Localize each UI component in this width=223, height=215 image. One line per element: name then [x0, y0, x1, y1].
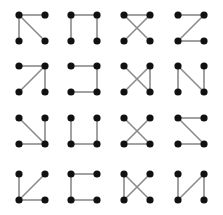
dot-br [146, 88, 153, 95]
dot-bl [67, 196, 74, 203]
dot-tl [15, 62, 22, 69]
dot-tr [200, 114, 207, 121]
dot-bl [120, 37, 127, 44]
pattern-cell-r2-c3 [120, 62, 153, 95]
dot-br [93, 88, 100, 95]
dot-tr [93, 170, 100, 177]
dot-br [93, 37, 100, 44]
dot-bl [15, 37, 22, 44]
pattern-cell-r1-c3 [120, 11, 153, 44]
dot-tl [15, 114, 22, 121]
dot-br [200, 140, 207, 147]
dot-bl [174, 140, 181, 147]
dot-bl [67, 88, 74, 95]
dot-br [146, 140, 153, 147]
dot-bl [120, 140, 127, 147]
dot-tr [93, 62, 100, 69]
pattern-cell-r4-c2 [67, 170, 100, 203]
dot-bl [120, 88, 127, 95]
dot-br [146, 37, 153, 44]
dot-tl [67, 170, 74, 177]
dot-bl [15, 140, 22, 147]
pattern-cell-r3-c2 [67, 114, 100, 147]
dot-tr [93, 114, 100, 121]
dot-br [41, 37, 48, 44]
dot-tl [15, 11, 22, 18]
dot-br [200, 196, 207, 203]
dot-tl [120, 114, 127, 121]
dot-bl [67, 140, 74, 147]
dot-tl [67, 62, 74, 69]
dot-tl [174, 114, 181, 121]
dot-tl [15, 170, 22, 177]
dot-tr [200, 62, 207, 69]
pattern-cell-r1-c2 [67, 11, 100, 44]
dot-tr [200, 11, 207, 18]
edge-tl-br [19, 15, 45, 41]
edge-tl-br [19, 118, 45, 144]
dot-tr [41, 170, 48, 177]
pattern-cell-r4-c3 [120, 170, 153, 203]
dot-bl [174, 37, 181, 44]
pattern-cell-r3-c4 [174, 114, 207, 147]
dot-tr [146, 114, 153, 121]
dot-tr [146, 170, 153, 177]
dot-tr [93, 11, 100, 18]
dot-tl [120, 170, 127, 177]
edge-tr-bl [178, 15, 204, 41]
dot-tl [67, 11, 74, 18]
dot-tl [67, 114, 74, 121]
dot-tr [200, 170, 207, 177]
dot-tr [146, 62, 153, 69]
edge-tr-bl [178, 174, 204, 200]
pattern-cell-r4-c1 [15, 170, 48, 203]
dot-bl [174, 88, 181, 95]
dot-tl [120, 11, 127, 18]
dot-br [41, 88, 48, 95]
edge-tl-br [178, 118, 204, 144]
dot-tr [41, 62, 48, 69]
dot-pattern-grid [0, 0, 223, 215]
dot-br [200, 88, 207, 95]
dot-br [93, 140, 100, 147]
dot-tl [174, 62, 181, 69]
pattern-cell-r2-c4 [174, 62, 207, 95]
pattern-cell-r3-c3 [120, 114, 153, 147]
dot-tl [174, 11, 181, 18]
edge-tr-bl [19, 66, 45, 92]
dot-bl [15, 88, 22, 95]
dot-bl [67, 37, 74, 44]
pattern-cell-r2-c1 [15, 62, 48, 95]
dot-br [93, 196, 100, 203]
pattern-cell-r2-c2 [67, 62, 100, 95]
dot-bl [15, 196, 22, 203]
dot-tr [41, 114, 48, 121]
edge-tl-br [178, 66, 204, 92]
pattern-cell-r4-c4 [174, 170, 207, 203]
dot-br [146, 196, 153, 203]
dot-tr [146, 11, 153, 18]
pattern-cell-r1-c1 [15, 11, 48, 44]
dot-tl [120, 62, 127, 69]
dot-bl [174, 196, 181, 203]
edge-tr-bl [19, 174, 45, 200]
dot-tl [174, 170, 181, 177]
dot-br [200, 37, 207, 44]
pattern-cell-r3-c1 [15, 114, 48, 147]
dot-tr [41, 11, 48, 18]
pattern-cell-r1-c4 [174, 11, 207, 44]
dot-bl [120, 196, 127, 203]
dot-br [41, 140, 48, 147]
dot-br [41, 196, 48, 203]
